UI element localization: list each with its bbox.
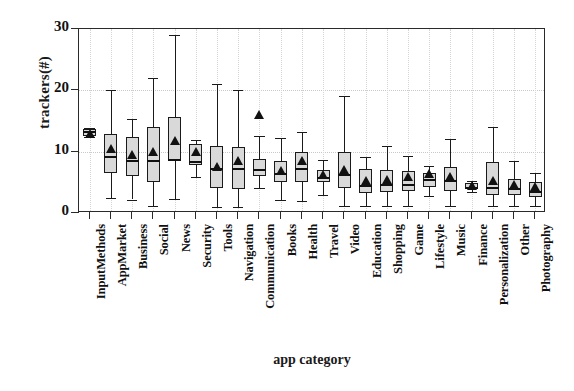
whisker-upper	[153, 78, 154, 127]
whisker-cap-lower	[169, 199, 179, 200]
box-iqr	[253, 159, 266, 176]
whisker-upper	[493, 127, 494, 162]
whisker-lower	[259, 176, 260, 188]
mean-triangle-marker	[530, 182, 540, 191]
x-axis-tick-label: Travel	[327, 224, 342, 258]
whisker-lower	[429, 187, 430, 196]
x-axis-tick-mark	[343, 212, 344, 219]
whisker-cap-lower	[212, 207, 222, 208]
whisker-upper	[132, 119, 133, 137]
whisker-upper	[450, 139, 451, 167]
whisker-cap-upper	[106, 90, 116, 91]
whisker-lower	[323, 182, 324, 194]
whisker-upper	[344, 96, 345, 151]
mean-triangle-marker	[254, 110, 264, 119]
x-axis-tick-label: Security	[200, 224, 215, 268]
x-axis-tick-label: Music	[454, 224, 469, 256]
whisker-cap-lower	[106, 198, 116, 199]
whisker-lower	[535, 197, 536, 206]
whisker-cap-upper	[233, 90, 243, 91]
y-axis-tick-label: 20	[0, 79, 78, 96]
whisker-lower	[493, 195, 494, 206]
mean-triangle-marker	[297, 156, 307, 165]
whisker-cap-lower	[467, 192, 477, 193]
x-axis-tick-label: Tools	[221, 224, 236, 252]
whisker-cap-upper	[403, 156, 413, 157]
whisker-cap-lower	[339, 206, 349, 207]
chart-figure: trackers(#) 0102030 InputMethodsAppMarke…	[0, 0, 574, 391]
whisker-upper	[281, 138, 282, 161]
x-axis-tick-label: Lifestyle	[433, 224, 448, 269]
x-axis-tick-label: Game	[412, 224, 427, 256]
whisker-lower	[408, 191, 409, 206]
whisker-cap-lower	[360, 206, 370, 207]
whisker-cap-lower	[530, 206, 540, 207]
mean-triangle-marker	[148, 147, 158, 156]
whisker-cap-lower	[233, 207, 243, 208]
x-axis-tick-mark	[534, 212, 535, 219]
x-axis-tick-mark	[195, 212, 196, 219]
mean-triangle-marker	[382, 175, 392, 184]
median-line	[232, 168, 245, 170]
whisker-cap-upper	[445, 139, 455, 140]
whisker-cap-lower	[127, 200, 137, 201]
whisker-cap-upper	[148, 78, 158, 79]
x-axis-tick-label: Shopping	[391, 224, 406, 274]
whisker-upper	[408, 156, 409, 171]
whisker-upper	[217, 84, 218, 145]
whisker-cap-upper	[191, 140, 201, 141]
gridline-vertical	[90, 29, 91, 211]
whisker-cap-upper	[488, 127, 498, 128]
median-line	[147, 160, 160, 162]
whisker-cap-upper	[169, 35, 179, 36]
whisker-cap-upper	[360, 157, 370, 158]
whisker-cap-lower	[275, 200, 285, 201]
x-axis-tick-label: Finance	[476, 224, 491, 266]
mean-triangle-marker	[339, 165, 349, 174]
mean-triangle-marker	[233, 156, 243, 165]
whisker-cap-lower	[254, 188, 264, 189]
whisker-upper	[238, 90, 239, 146]
mean-triangle-marker	[403, 172, 413, 181]
whisker-cap-lower	[403, 206, 413, 207]
x-axis-tick-mark	[131, 212, 132, 219]
whisker-lower	[344, 188, 345, 205]
whisker-cap-upper	[339, 96, 349, 97]
x-axis-tick-mark	[513, 212, 514, 219]
y-axis-tick-mark	[71, 212, 79, 213]
whisker-upper	[535, 173, 536, 182]
x-axis-tick-label: AppMarket	[115, 224, 130, 286]
whisker-cap-lower	[382, 206, 392, 207]
whisker-cap-lower	[509, 206, 519, 207]
whisker-lower	[111, 173, 112, 199]
whisker-cap-upper	[212, 84, 222, 85]
whisker-lower	[196, 165, 197, 178]
x-axis-tick-mark	[386, 212, 387, 219]
median-line	[253, 169, 266, 171]
x-axis-tick-mark	[280, 212, 281, 219]
whisker-cap-lower	[424, 196, 434, 197]
mean-triangle-marker	[509, 180, 519, 189]
y-axis-tick-label: 30	[0, 18, 78, 35]
x-axis-tick-mark	[89, 212, 90, 219]
x-axis-tick-label: InputMethods	[94, 224, 109, 299]
x-axis-tick-label: Health	[306, 224, 321, 260]
whisker-cap-lower	[191, 177, 201, 178]
x-axis-tick-mark	[301, 212, 302, 219]
whisker-cap-upper	[509, 161, 519, 162]
gridline-horizontal	[79, 90, 544, 91]
median-line	[295, 168, 308, 170]
whisker-lower	[238, 189, 239, 207]
whisker-cap-lower	[488, 206, 498, 207]
mean-triangle-marker	[191, 147, 201, 156]
whisker-cap-lower	[148, 206, 158, 207]
whisker-lower	[302, 182, 303, 201]
x-axis-tick-mark	[428, 212, 429, 219]
median-line	[104, 156, 117, 158]
x-axis-tick-label: News	[179, 224, 194, 252]
mean-triangle-marker	[85, 129, 95, 138]
whisker-lower	[514, 195, 515, 205]
whisker-lower	[366, 193, 367, 206]
y-axis-tick-label: 10	[0, 141, 78, 158]
mean-triangle-marker	[445, 172, 455, 181]
